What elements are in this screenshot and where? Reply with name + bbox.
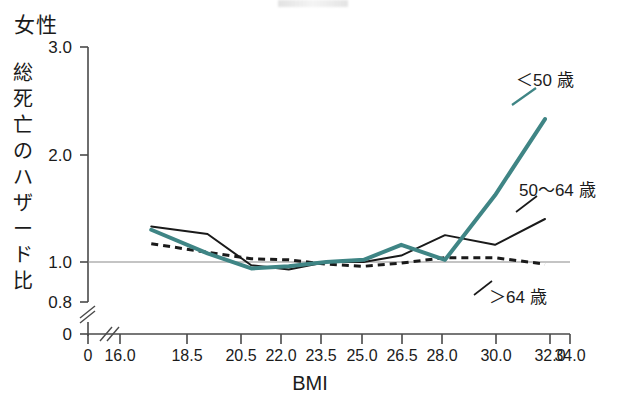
x-tick-label: 30.0 [473, 347, 519, 365]
x-axis-title: BMI [0, 372, 620, 395]
y-tick-label: 0.8 [26, 293, 72, 313]
series-line-under50 [151, 119, 545, 268]
series-label-over64: ＞64 歳 [489, 283, 547, 308]
y-tick-label: 1.0 [26, 253, 72, 273]
data-series-group [151, 119, 545, 269]
x-tick-label: 23.5 [298, 347, 344, 365]
x-tick-label: 28.0 [419, 347, 465, 365]
series-label-under50: ＜50 歳 [516, 66, 574, 91]
chart-figure: 女性 総 死 亡 の ハ ザ ー ド 比 [0, 0, 620, 408]
series-label-50to64: 50〜64 歳 [519, 176, 596, 201]
y-tick-label: 0 [26, 325, 72, 345]
y-tick-label: 3.0 [26, 38, 72, 58]
y-tick-label: 2.0 [26, 146, 72, 166]
x-tick-label: 16.0 [97, 347, 143, 365]
x-tick-label: 18.5 [164, 347, 210, 365]
x-tick-label: 34.0 [547, 347, 593, 365]
